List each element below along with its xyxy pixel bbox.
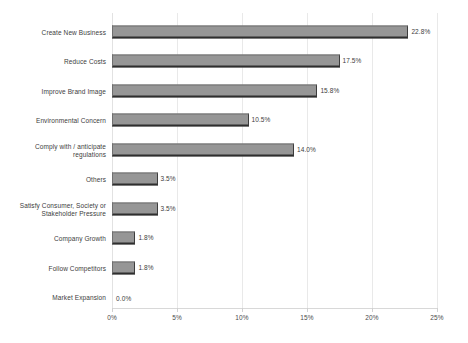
bar-container: 3.5%	[112, 173, 158, 188]
category-label: Company Growth	[0, 235, 106, 244]
bar-row: Market Expansion0.0%0.0%	[0, 283, 468, 314]
bar-container: 1.8%	[112, 261, 135, 276]
bar-chart: Create New Business22.8%Reduce Costs17.5…	[0, 0, 468, 343]
bar-container: 10.5%	[112, 114, 249, 129]
bar-row: Reduce Costs17.5%	[0, 47, 468, 78]
bar-container: 14.0%	[112, 143, 294, 158]
bar-value-label: 1.8%	[138, 264, 153, 271]
category-label: Reduce Costs	[0, 58, 106, 67]
bar-value-label: 3.5%	[161, 175, 176, 182]
bar-value-label: 17.5%	[343, 57, 362, 64]
bar-value-label: 0.0%	[116, 295, 131, 302]
bar-container: 22.8%	[112, 25, 408, 40]
bar-row: Create New Business22.8%	[0, 17, 468, 48]
bar-row: Comply with / anticipate regulations14.0…	[0, 135, 468, 166]
tick-mark-0pct	[112, 308, 113, 312]
bar[interactable]: 15.8%	[112, 84, 317, 97]
bar-container: 1.8%	[112, 232, 135, 247]
tick-mark-15pct	[307, 308, 308, 312]
bar-value-label: 15.8%	[320, 87, 339, 94]
bar-row: Improve Brand Image15.8%	[0, 76, 468, 107]
bar[interactable]: 3.5%	[112, 173, 158, 186]
category-label: Improve Brand Image	[0, 87, 106, 96]
bar-row: Environmental Concern10.5%	[0, 106, 468, 137]
bar-value-label: 3.5%	[161, 205, 176, 212]
bar-value-label: 1.8%	[138, 234, 153, 241]
bar-row: Follow Competitors1.8%	[0, 253, 468, 284]
bar[interactable]: 1.8%	[112, 232, 135, 245]
tick-mark-5pct	[177, 308, 178, 312]
bar[interactable]: 10.5%	[112, 114, 249, 127]
bar-container: 17.5%	[112, 55, 340, 70]
x-tick-label: 10%	[222, 314, 262, 321]
category-label: Environmental Concern	[0, 117, 106, 126]
category-label: Market Expansion	[0, 294, 106, 303]
category-label: Follow Competitors	[0, 264, 106, 273]
x-tick-label: 20%	[352, 314, 392, 321]
category-label: Others	[0, 176, 106, 185]
bar-container: 15.8%	[112, 84, 317, 99]
bar-row: Others3.5%	[0, 165, 468, 196]
category-label: Satisfy Consumer, Society or Stakeholder…	[0, 201, 106, 218]
x-tick-label: 0%	[92, 314, 132, 321]
bar-row: Company Growth1.8%	[0, 224, 468, 255]
bar[interactable]: 14.0%	[112, 143, 294, 156]
bar[interactable]: 1.8%	[112, 261, 135, 274]
x-tick-label: 5%	[157, 314, 197, 321]
bar-value-label: 22.8%	[411, 28, 430, 35]
tick-mark-10pct	[242, 308, 243, 312]
bar-value-label: 10.5%	[252, 116, 271, 123]
bar[interactable]: 3.5%	[112, 202, 158, 215]
tick-mark-20pct	[372, 308, 373, 312]
bar[interactable]: 22.8%	[112, 25, 408, 38]
bar-value-label: 14.0%	[297, 146, 316, 153]
bar-row: Satisfy Consumer, Society or Stakeholder…	[0, 194, 468, 225]
category-label: Comply with / anticipate regulations	[0, 142, 106, 159]
bar[interactable]: 17.5%	[112, 55, 340, 68]
x-tick-label: 15%	[287, 314, 327, 321]
tick-mark-25pct	[437, 308, 438, 312]
bar-container: 3.5%	[112, 202, 158, 217]
x-tick-label: 25%	[417, 314, 457, 321]
category-label: Create New Business	[0, 28, 106, 37]
